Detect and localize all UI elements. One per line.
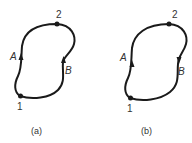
caption-a: (a): [31, 126, 42, 136]
panel-b: 1 2 A B (b): [119, 9, 186, 136]
panel-a: 1 2 A B (a): [9, 9, 74, 136]
point-1-dot: [128, 96, 133, 101]
point-2-label: 2: [56, 9, 62, 20]
path-b-label: B: [178, 66, 185, 77]
point-1-dot: [18, 94, 23, 99]
point-2-dot: [167, 22, 172, 27]
point-2-label: 2: [172, 9, 178, 20]
point-1-label: 1: [17, 101, 23, 112]
point-2-dot: [55, 22, 60, 27]
closed-path-loop: [125, 24, 186, 100]
figure-canvas: 1 2 A B (a) 1 2 A B (b): [0, 0, 192, 143]
path-b-label: B: [65, 65, 72, 76]
closed-path-loop: [15, 24, 74, 98]
arrow-up-icon: [19, 53, 24, 60]
caption-b: (b): [141, 126, 152, 136]
path-a-label: A: [119, 52, 127, 63]
point-1-label: 1: [127, 103, 133, 114]
path-a-label: A: [9, 51, 17, 62]
